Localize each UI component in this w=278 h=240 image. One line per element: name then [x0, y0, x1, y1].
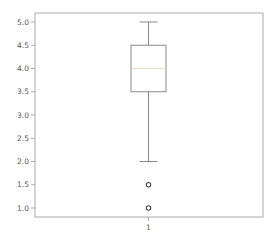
x-axis: 1 — [146, 217, 151, 232]
y-tick-label: 4.5 — [17, 41, 29, 50]
box-group-1 — [131, 22, 166, 210]
y-tick-label: 2.5 — [17, 134, 29, 143]
y-axis: 1.01.52.02.53.03.54.04.55.0 — [17, 18, 35, 213]
outlier-point — [146, 206, 150, 210]
y-tick-label: 3.5 — [17, 87, 29, 96]
y-tick-label: 4.0 — [17, 64, 29, 73]
y-tick-label: 2.0 — [17, 157, 29, 166]
y-tick-label: 1.0 — [17, 204, 29, 213]
plot-area — [35, 13, 263, 217]
y-tick-label: 1.5 — [17, 180, 29, 189]
y-tick-label: 3.0 — [17, 111, 29, 120]
outlier-point — [146, 183, 150, 187]
y-tick-label: 5.0 — [17, 18, 29, 27]
x-tick-label: 1 — [146, 223, 151, 232]
box-plot-chart: 1.01.52.02.53.03.54.04.55.0 1 — [0, 0, 278, 240]
